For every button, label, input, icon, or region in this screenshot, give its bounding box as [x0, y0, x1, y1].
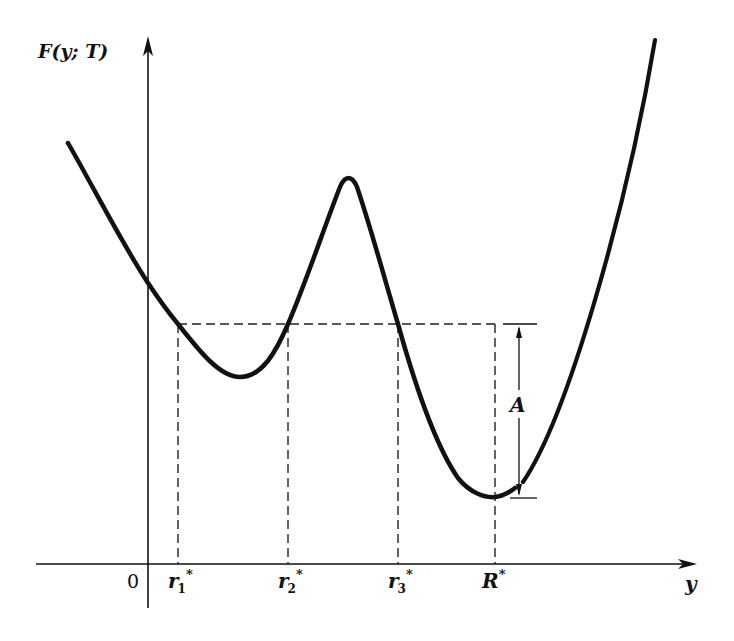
- origin-label: 0: [127, 570, 139, 592]
- tick-label-r3: r3*: [388, 569, 413, 593]
- diagram-svg: [0, 0, 734, 641]
- curve-f: [68, 143, 515, 497]
- a-arrow-up-icon: [516, 326, 522, 338]
- a-arrow-down-icon: [516, 484, 522, 496]
- figure: F(y; T) y 0 A r1* r2* r3* R*: [0, 0, 734, 641]
- curve-f-right-branch: [523, 40, 655, 482]
- tick-label-r2: r2*: [278, 569, 303, 593]
- y-axis-label: F(y; T): [38, 40, 108, 62]
- dashed-guides: [178, 324, 500, 564]
- bracket-a-label: A: [510, 393, 526, 417]
- axes: [36, 44, 690, 608]
- tick-label-R: R*: [482, 569, 505, 593]
- x-axis-label: y: [685, 572, 697, 596]
- tick-label-r1: r1*: [168, 569, 193, 593]
